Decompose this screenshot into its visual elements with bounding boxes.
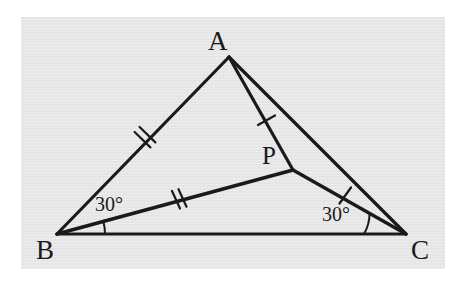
angle-label-C: 30° [322, 204, 350, 224]
angle-arc-B [103, 221, 105, 234]
segment-AC [229, 57, 406, 234]
diagram-canvas [0, 0, 462, 281]
vertex-label-C: C [411, 237, 429, 264]
angle-label-B: 30° [95, 194, 123, 214]
angle-arc-C [364, 213, 370, 234]
vertex-label-A: A [208, 28, 228, 55]
segment-BP [57, 170, 293, 234]
vertex-label-B: B [36, 237, 54, 264]
segment-AB [57, 57, 229, 234]
geometry-figure: A B C P 30° 30° [0, 0, 462, 281]
point-label-P: P [262, 143, 276, 168]
